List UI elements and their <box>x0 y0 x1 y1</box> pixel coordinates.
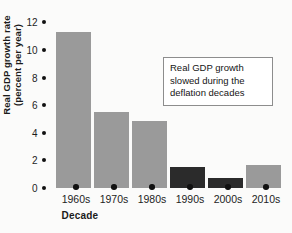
y-axis-tick-2: 2 <box>8 154 46 166</box>
bar-1970s <box>94 112 129 189</box>
annotation-line-1: Real GDP growth <box>170 62 267 75</box>
y-axis-title-line-2: (percent per year) <box>12 24 24 106</box>
y-axis-tick-dot-icon <box>42 103 47 108</box>
annotation-line-2: slowed during the <box>170 75 267 88</box>
x-axis-title: Decade <box>52 210 108 221</box>
y-axis-tick-10: 10 <box>8 44 46 56</box>
annotation-line-3: deflation decades <box>170 87 267 100</box>
x-axis-tick-dot-icon <box>225 184 231 190</box>
y-axis-tick-label-8: 8 <box>32 73 42 84</box>
x-axis-tick-dot-icon <box>149 184 155 190</box>
x-axis-label-2010s: 2010s <box>244 193 288 205</box>
y-axis-tick-6: 6 <box>8 99 46 111</box>
chart-figure: Real GDP growth rate (percent per year) … <box>0 0 292 233</box>
y-axis-tick-0: 0 <box>8 182 46 194</box>
y-axis-tick-dot-icon <box>42 20 47 25</box>
x-axis-tick-dot-icon <box>111 184 117 190</box>
y-axis-tick-dot-icon <box>42 76 47 81</box>
y-axis-tick-dot-icon <box>42 186 47 191</box>
y-axis-tick-8: 8 <box>8 72 46 84</box>
y-axis-tick-label-6: 6 <box>32 100 42 111</box>
y-axis-tick-12: 12 <box>8 16 46 28</box>
y-axis-tick-dot-icon <box>42 131 47 136</box>
y-axis-tick-label-12: 12 <box>26 17 41 28</box>
y-axis-tick-4: 4 <box>8 127 46 139</box>
y-axis-tick-label-0: 0 <box>32 183 42 194</box>
x-axis-tick-dot-icon <box>73 184 79 190</box>
bar-1960s <box>56 32 91 188</box>
y-axis-tick-label-2: 2 <box>32 155 42 166</box>
bar-1980s <box>132 121 167 188</box>
y-axis-tick-dot-icon <box>42 158 47 163</box>
y-axis-tick-label-4: 4 <box>32 128 42 139</box>
annotation-callout: Real GDP growth slowed during the deflat… <box>163 57 273 106</box>
y-axis-tick-label-10: 10 <box>26 45 41 56</box>
y-axis-tick-dot-icon <box>42 48 47 53</box>
x-axis-tick-dot-icon <box>263 184 269 190</box>
x-axis-tick-dot-icon <box>187 184 193 190</box>
